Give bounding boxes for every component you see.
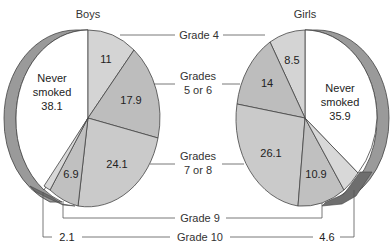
girls-grade4-value: 8.5 [284, 54, 299, 66]
boys-grade4-value: 11 [100, 53, 111, 65]
girls-grades78-value: 26.1 [260, 147, 281, 159]
boys-grade10-value: 2.1 [59, 231, 74, 243]
girls-pie: Girls Never smoked 35.9 8.5 14 26.1 10.9 [236, 8, 389, 206]
label-grades-7-8-line2: 7 or 8 [184, 164, 212, 176]
label-grades-5-6-line1: Grades [180, 70, 217, 82]
smoking-pie-charts: Boys Never smoked 38.1 11 17.9 24.1 6.9 … [0, 0, 391, 245]
label-grades-7-8-line1: Grades [180, 150, 217, 162]
label-grade-9: Grade 9 [180, 212, 220, 224]
boys-grades78-value: 24.1 [106, 158, 127, 170]
boys-never-label-2: smoked [33, 86, 72, 98]
girls-title: Girls [294, 8, 317, 20]
girls-never-label-2: smoked [321, 96, 360, 108]
girls-never-label-1: Never [325, 82, 355, 94]
boys-never-value: 38.1 [41, 100, 62, 112]
boys-never-label-1: Never [37, 72, 67, 84]
girls-grade10-value: 4.6 [319, 231, 334, 243]
girls-never-value: 35.9 [329, 110, 350, 122]
label-grades-5-6-line2: 5 or 6 [184, 84, 212, 96]
boys-title: Boys [76, 8, 101, 20]
label-grade-10: Grade 10 [177, 231, 223, 243]
label-grade-4: Grade 4 [179, 29, 219, 41]
girls-grades56-value: 14 [261, 77, 273, 89]
boys-grade9-value: 6.9 [63, 168, 78, 180]
girls-grade9-value: 10.9 [305, 168, 326, 180]
boys-grades56-value: 17.9 [120, 94, 141, 106]
boys-pie: Boys Never smoked 38.1 11 17.9 24.1 6.9 [4, 8, 160, 207]
